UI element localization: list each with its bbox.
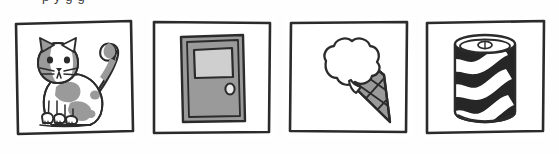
picture-panel-row — [0, 13, 559, 154]
caption-strip: p y g g — [0, 0, 559, 13]
picture-panel-door[interactable] — [150, 17, 274, 138]
picture-panel-icecream[interactable] — [286, 17, 412, 138]
picture-panel-cat[interactable] — [12, 17, 136, 138]
soda-can-drawing — [422, 17, 548, 138]
ice-cream-cone-drawing — [286, 17, 412, 138]
door-drawing — [150, 17, 274, 138]
caption-text: p y g g — [42, 0, 85, 3]
picture-panel-can[interactable] — [422, 17, 548, 138]
cat-drawing — [12, 17, 136, 138]
worksheet-sheet: p y g g — [0, 0, 559, 154]
